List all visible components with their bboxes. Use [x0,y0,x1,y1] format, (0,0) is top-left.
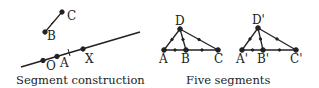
point-a [55,54,59,58]
tick-bc-prime [278,49,280,51]
tick-dc [198,38,200,40]
point-c [60,10,64,14]
label-a: A [59,56,69,70]
label-b: B [47,29,56,43]
tick-db-prime [259,38,261,40]
segment-construction-figure [21,10,140,67]
tick-da [171,38,173,40]
label-c: C [67,9,76,23]
label-b: B [181,52,190,66]
tick-dc-prime [276,38,278,40]
point-x [81,47,85,51]
caption-segment-construction: Segment construction [16,73,145,87]
tick-ab-prime [251,49,253,51]
label-a: A [158,52,168,66]
tick-db [182,38,184,40]
label-a-prime: A' [235,52,248,66]
label-o: O [46,59,56,73]
label-b-prime: B' [257,52,269,66]
point-o [41,58,45,62]
tick-ab [174,49,176,51]
label-d: D [175,14,185,28]
geometry-figures: C B O A X Segment construction D A B C [0,0,319,88]
five-segments-prime-figure [240,26,299,53]
five-segments-figure [162,27,221,53]
caption-five-segments: Five segments [186,73,270,87]
label-c-prime: C' [290,52,302,66]
tick-bc [201,49,203,51]
diagram-canvas: C B O A X Segment construction D A B C [0,0,319,88]
label-x: X [85,52,94,66]
tick-da-prime [249,38,251,40]
label-d-prime: D' [252,13,265,27]
label-c: C [214,52,223,66]
